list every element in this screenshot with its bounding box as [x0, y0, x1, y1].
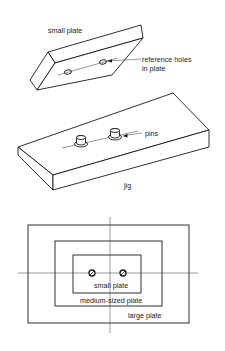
plan-hole-2 — [120, 270, 126, 276]
large-plate-outline — [28, 225, 189, 323]
reference-holes-label-line1: reference holes — [142, 55, 192, 64]
jig-block — [18, 93, 209, 190]
plan-large-plate-label: large plate — [128, 311, 162, 320]
pins-label: pins — [145, 129, 159, 138]
small-plate-isometric — [30, 25, 143, 90]
pin-2 — [109, 129, 122, 141]
jig-label: jig — [123, 181, 131, 190]
reference-holes-label-line2: in plate — [142, 64, 165, 73]
plan-hole-1 — [89, 270, 95, 276]
jig-plate-diagram: small plate reference holes in plate pin… — [0, 0, 225, 351]
plan-medium-plate-label: medium-sized plate — [80, 296, 142, 305]
pin-1 — [75, 136, 88, 148]
plan-small-plate-label: small plate — [94, 281, 128, 290]
plan-view — [18, 217, 198, 333]
small-plate-label: small plate — [48, 26, 82, 35]
